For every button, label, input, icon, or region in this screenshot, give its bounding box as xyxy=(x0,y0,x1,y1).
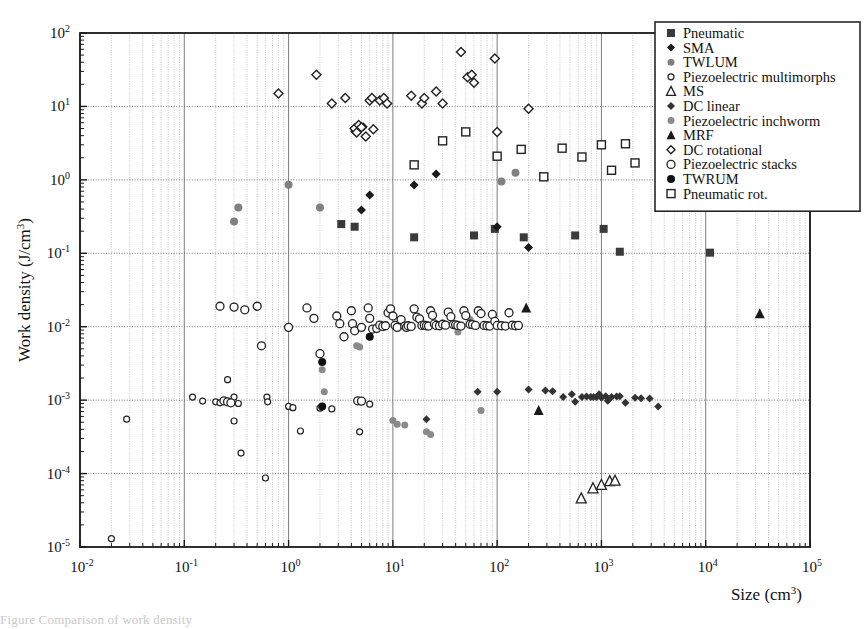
data-point xyxy=(558,144,566,152)
legend-item-piezoelectric-inchworm[interactable]: Piezoelectric inchworm xyxy=(668,113,822,129)
data-point xyxy=(230,303,238,311)
data-point xyxy=(262,475,268,481)
legend-label: TWRUM xyxy=(683,171,739,187)
data-point xyxy=(505,309,513,317)
data-point xyxy=(235,401,241,407)
legend[interactable]: PneumaticSMATWLUMPiezoelectric multimorp… xyxy=(655,22,860,211)
legend-marker-filled-circle-gray xyxy=(668,59,675,66)
data-point xyxy=(462,312,470,320)
legend-label: TWLUM xyxy=(683,54,738,70)
data-point xyxy=(231,418,237,424)
legend-label: Piezoelectric stacks xyxy=(683,156,797,172)
data-point xyxy=(337,220,345,228)
data-point xyxy=(442,321,450,329)
data-point xyxy=(457,322,465,330)
legend-label: MS xyxy=(683,83,704,99)
data-point xyxy=(616,248,624,256)
legend-marker-filled-circle-gray xyxy=(668,117,675,124)
data-point xyxy=(290,405,296,411)
data-point xyxy=(540,173,548,181)
data-point xyxy=(427,431,434,438)
data-point xyxy=(238,450,244,456)
data-point xyxy=(200,398,206,404)
data-point xyxy=(706,249,714,257)
data-point xyxy=(310,314,318,322)
data-point xyxy=(429,311,437,319)
y-axis-title: Work density (J/cm3) xyxy=(14,218,34,362)
data-point xyxy=(216,302,224,310)
legend-item-piezoelectric-multimorphs[interactable]: Piezoelectric multimorphs xyxy=(668,69,836,85)
data-point xyxy=(393,323,401,331)
data-point xyxy=(520,233,528,241)
data-point xyxy=(477,407,484,414)
data-point xyxy=(447,313,455,321)
legend-label: DC rotational xyxy=(683,142,762,158)
data-point xyxy=(366,333,374,341)
data-point xyxy=(340,333,348,341)
legend-marker-open-circle-small xyxy=(668,74,674,80)
data-point xyxy=(439,137,447,145)
data-point xyxy=(410,305,418,313)
data-point xyxy=(410,233,418,241)
data-point xyxy=(285,323,293,331)
data-point xyxy=(497,177,505,185)
data-point xyxy=(600,225,608,233)
data-point xyxy=(297,428,303,434)
data-point xyxy=(257,342,265,350)
legend-marker-open-circle xyxy=(667,160,675,168)
legend-marker-filled-circle xyxy=(667,175,675,183)
data-point xyxy=(608,166,616,174)
data-point xyxy=(512,169,520,177)
data-point xyxy=(347,307,355,315)
legend-label: DC linear xyxy=(683,98,740,114)
data-point xyxy=(462,128,470,136)
data-point xyxy=(318,402,326,410)
data-point xyxy=(190,394,196,400)
data-point xyxy=(285,181,293,189)
data-point xyxy=(571,231,579,239)
data-point xyxy=(356,343,363,350)
legend-label: Piezoelectric multimorphs xyxy=(683,69,836,85)
data-point xyxy=(108,536,114,542)
data-point xyxy=(329,406,335,412)
legend-item-pneumatic-rot-[interactable]: Pneumatic rot. xyxy=(667,186,768,202)
data-point xyxy=(517,145,525,153)
data-point xyxy=(225,377,231,383)
data-point xyxy=(253,302,261,310)
data-point xyxy=(578,153,586,161)
data-point xyxy=(381,322,389,330)
data-point xyxy=(477,310,485,318)
data-point xyxy=(321,388,328,395)
data-point xyxy=(597,141,605,149)
data-point xyxy=(265,399,271,405)
legend-label: SMA xyxy=(683,40,715,56)
data-point xyxy=(364,304,372,312)
data-point xyxy=(357,397,365,405)
data-point xyxy=(407,322,415,330)
legend-label: Pneumatic xyxy=(683,25,744,41)
data-point xyxy=(394,421,401,428)
data-point xyxy=(336,320,344,328)
legend-label: MRF xyxy=(683,127,714,143)
legend-marker-open-square xyxy=(667,190,675,198)
data-point xyxy=(241,306,249,314)
data-point xyxy=(401,421,408,428)
data-point xyxy=(367,401,373,407)
scatter-chart: 10-210-110010110210310410510-510-410-310… xyxy=(0,0,866,629)
legend-marker-filled-square xyxy=(667,29,675,37)
data-point xyxy=(124,416,130,422)
data-point xyxy=(319,366,326,373)
legend-label: Piezoelectric inchworm xyxy=(683,113,821,129)
data-point xyxy=(514,321,522,329)
data-point xyxy=(470,231,478,239)
legend-item-piezoelectric-stacks[interactable]: Piezoelectric stacks xyxy=(667,156,797,172)
figure-caption: Figure Comparison of work density xyxy=(0,612,866,629)
data-point xyxy=(234,204,242,212)
data-point xyxy=(351,223,359,231)
data-point xyxy=(389,312,397,320)
data-point xyxy=(471,321,479,329)
data-point xyxy=(366,314,374,322)
data-point xyxy=(357,429,363,435)
legend-label: Pneumatic rot. xyxy=(683,186,768,202)
data-point xyxy=(230,218,238,226)
